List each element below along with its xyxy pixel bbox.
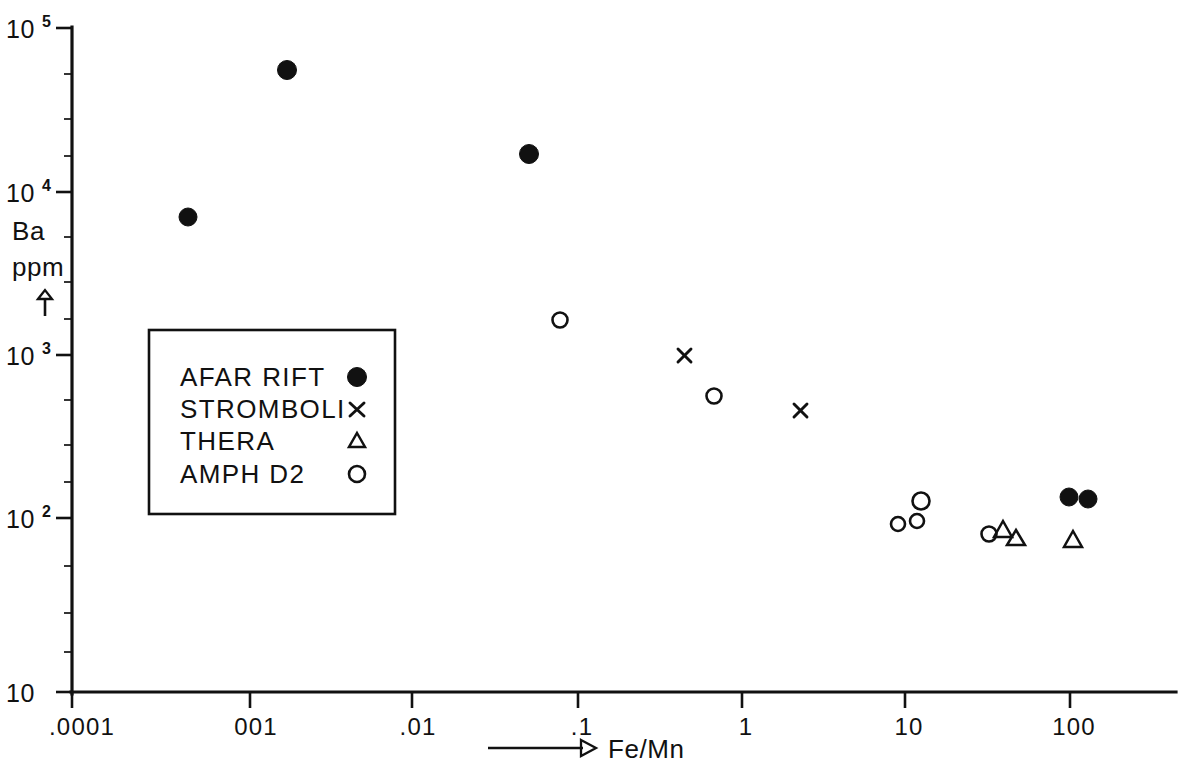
y-tick-label-1e5: 10 5 <box>6 13 51 43</box>
data-point-open-circle <box>707 389 722 404</box>
x-axis-ticks <box>72 692 1070 708</box>
data-point-filled-circle <box>520 145 539 164</box>
x-tick-label: 10 <box>894 713 923 740</box>
data-point-filled-circle <box>179 208 197 226</box>
data-point-filled-circle <box>1060 488 1078 506</box>
data-point-open-circle <box>982 527 997 542</box>
data-point-triangle <box>1064 531 1082 547</box>
series-afar-rift <box>179 61 1097 510</box>
data-point-cross <box>678 349 691 362</box>
data-point-open-circle <box>553 313 568 328</box>
legend-item-label: AFAR RIFT <box>180 362 326 392</box>
data-point-filled-circle <box>278 61 297 80</box>
x-axis-title-label: Fe/Mn <box>608 734 685 764</box>
open-circle-icon <box>349 466 365 482</box>
scatter-plot: 10 5 10 4 10 3 10 2 10 Ba ppm <box>0 0 1186 770</box>
right-arrow-icon <box>488 740 596 756</box>
x-tick-label: .1 <box>571 713 593 740</box>
up-arrow-icon <box>38 290 52 316</box>
figure-canvas: 10 5 10 4 10 3 10 2 10 Ba ppm <box>0 0 1186 770</box>
triangle-icon <box>349 433 365 447</box>
legend-item-label: THERA <box>180 426 275 456</box>
y-tick-exponent: 2 <box>42 503 51 520</box>
data-point-open-circle <box>913 493 930 510</box>
cross-icon <box>350 403 364 416</box>
y-tick-label-10: 10 <box>6 679 35 707</box>
legend: AFAR RIFT STROMBOLI THERA AMPH D2 <box>149 330 395 514</box>
data-point-cross <box>794 404 807 417</box>
y-axis <box>56 27 72 694</box>
data-point-triangle <box>994 521 1012 537</box>
y-tick-exponent: 3 <box>42 340 51 357</box>
x-tick-label: 1 <box>739 713 754 740</box>
y-axis-title-line1: Ba <box>12 216 45 246</box>
legend-item-afar-rift: AFAR RIFT <box>180 362 367 392</box>
series-thera <box>994 521 1082 547</box>
legend-item-amph-d2: AMPH D2 <box>180 459 365 489</box>
data-point-open-circle <box>910 514 924 528</box>
y-axis-title: Ba ppm <box>12 216 64 316</box>
filled-circle-icon <box>348 368 367 387</box>
data-point-filled-circle <box>1079 490 1097 508</box>
x-tick-label: 001 <box>234 713 278 740</box>
y-tick-base: 10 <box>6 342 35 370</box>
y-tick-base: 10 <box>6 15 35 43</box>
y-tick-label-1e3: 10 3 <box>6 340 51 370</box>
legend-item-label: STROMBOLI <box>180 394 346 424</box>
legend-item-thera: THERA <box>180 426 365 456</box>
y-tick-base: 10 <box>6 679 35 707</box>
x-tick-label: .0001 <box>49 713 115 740</box>
legend-item-stromboli: STROMBOLI <box>180 394 364 424</box>
legend-item-label: AMPH D2 <box>180 459 305 489</box>
x-tick-label: 100 <box>1052 713 1096 740</box>
y-tick-label-1e4: 10 4 <box>6 177 51 207</box>
y-tick-exponent: 4 <box>42 177 51 194</box>
data-point-open-circle <box>891 517 905 531</box>
series-amph-d2 <box>553 313 997 542</box>
y-tick-label-1e2: 10 2 <box>6 503 51 533</box>
y-tick-exponent: 5 <box>42 13 51 30</box>
y-tick-base: 10 <box>6 505 35 533</box>
y-axis-title-line2: ppm <box>12 252 64 282</box>
x-tick-label: .01 <box>400 713 437 740</box>
y-axis-ticks <box>56 74 72 692</box>
series-stromboli <box>678 349 807 417</box>
y-tick-base: 10 <box>6 179 35 207</box>
